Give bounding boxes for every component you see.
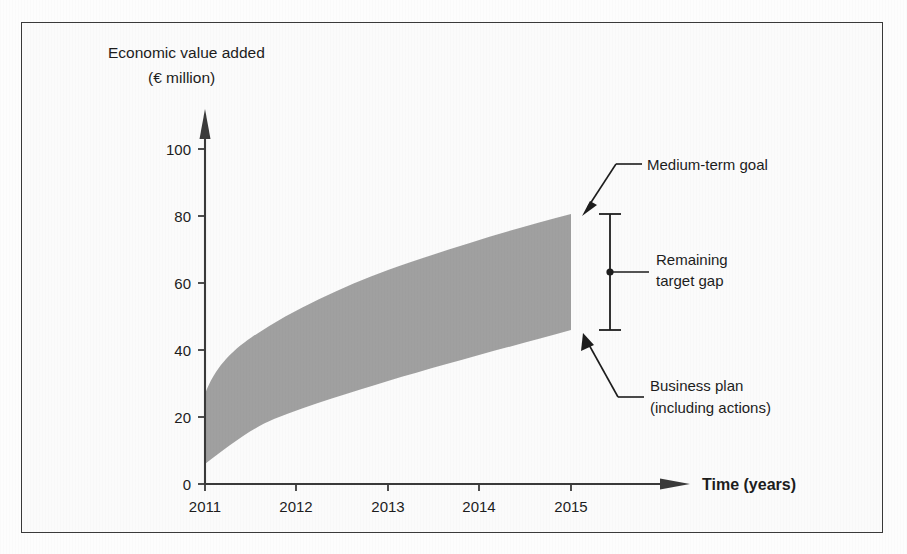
value-band-area (205, 214, 571, 464)
annotation-medium-term-goal: Medium-term goal (582, 156, 768, 216)
y-tick-label-40: 40 (174, 342, 191, 359)
y-axis-title-line2: (€ million) (148, 69, 215, 86)
y-tick-label-20: 20 (174, 409, 191, 426)
x-tick-label-2012: 2012 (279, 498, 312, 515)
x-tick-label-2015: 2015 (554, 498, 587, 515)
annotation-remaining-target-gap-line1: Remaining (656, 251, 728, 268)
y-axis-arrowhead (200, 109, 211, 139)
y-tick-label-80: 80 (174, 208, 191, 225)
y-tick-label-60: 60 (174, 275, 191, 292)
chart-canvas: 100 80 60 40 20 0 Economic value added (… (22, 23, 884, 534)
annotation-business-plan-line1: Business plan (650, 377, 743, 394)
annotation-remaining-target-gap-line2: target gap (656, 272, 724, 289)
x-tick-label-2011: 2011 (189, 498, 221, 515)
annotation-business-plan-line2: (including actions) (650, 399, 771, 416)
annotation-business-plan: Business plan (including actions) (581, 333, 771, 416)
y-tick-label-0: 0 (183, 476, 191, 493)
x-tick-label-2013: 2013 (371, 498, 404, 515)
x-axis-title: Time (years) (702, 476, 796, 493)
annotation-remaining-target-gap: Remaining target gap (599, 214, 728, 330)
y-tick-label-100: 100 (166, 141, 191, 158)
x-tick-label-2014: 2014 (462, 498, 495, 515)
figure-frame: 100 80 60 40 20 0 Economic value added (… (21, 22, 883, 533)
x-axis-arrowhead (660, 479, 690, 490)
annotation-medium-term-goal-label: Medium-term goal (647, 156, 768, 173)
y-axis-title-line1: Economic value added (108, 44, 265, 61)
